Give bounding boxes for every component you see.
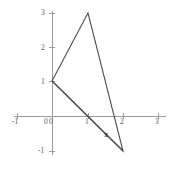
point-label-x: x (104, 131, 108, 139)
y-tick-label-1: 1 (41, 78, 45, 86)
y-tick-label-neg1: -1 (38, 147, 44, 155)
y-tick-label-2: 2 (41, 44, 45, 52)
y-tick-label-3: 3 (41, 9, 45, 17)
triangle-shape (52, 13, 123, 151)
y-tick-label-0: 0 (44, 118, 48, 126)
x-tick-label-2: 2 (120, 118, 124, 126)
x-tick-label-neg1: -1 (12, 118, 18, 126)
x-tick-label-0: 0 (49, 118, 53, 126)
coordinate-plot: -1 0 1 2 3 3 2 1 0 -1 x (0, 0, 173, 169)
x-tick-label-3: 3 (155, 118, 159, 126)
plot-canvas (0, 0, 173, 169)
x-tick-label-1: 1 (85, 118, 89, 126)
